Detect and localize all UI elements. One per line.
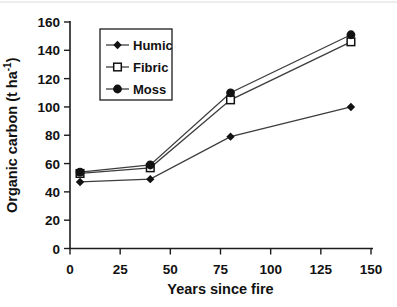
y-tick-label: 80 [45, 128, 60, 143]
x-tick-label: 150 [360, 262, 383, 277]
x-tick-label: 0 [66, 262, 74, 277]
marker-humic [146, 175, 154, 183]
x-axis-title: Years since fire [167, 281, 273, 297]
y-tick-label: 0 [52, 242, 60, 257]
legend-label-moss: Moss [133, 82, 166, 97]
legend-label-humic: Humic [133, 38, 173, 53]
marker-moss [226, 88, 235, 97]
marker-humic [76, 178, 84, 186]
legend-marker-moss [113, 85, 122, 94]
y-tick-label: 140 [37, 43, 60, 58]
marker-moss [146, 161, 155, 170]
y-tick-label: 160 [37, 15, 60, 30]
x-tick-label: 50 [163, 262, 178, 277]
marker-moss [76, 168, 85, 177]
y-tick-label: 60 [45, 157, 60, 172]
x-tick-label: 25 [113, 262, 129, 277]
x-tick-label: 75 [213, 262, 229, 277]
y-tick-label: 40 [45, 185, 60, 200]
x-tick-label: 125 [310, 262, 333, 277]
marker-fibric [347, 38, 355, 46]
legend-marker-fibric [114, 63, 122, 71]
line-chart: 0204060801001201401600255075100125150Yea… [0, 0, 397, 307]
marker-fibric [227, 96, 235, 104]
marker-humic [347, 103, 355, 111]
legend-label-fibric: Fibric [133, 60, 168, 75]
marker-humic [226, 132, 234, 140]
chart-figure: 0204060801001201401600255075100125150Yea… [0, 0, 397, 307]
y-tick-label: 100 [37, 100, 60, 115]
y-axis-title: Organic carbon (t ha-1) [2, 57, 20, 213]
y-tick-label: 120 [37, 72, 60, 87]
x-tick-label: 100 [259, 262, 282, 277]
y-tick-label: 20 [45, 213, 60, 228]
marker-moss [347, 30, 356, 39]
